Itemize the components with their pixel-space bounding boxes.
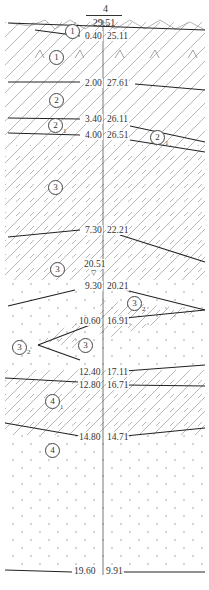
- layer-sub-index: 2: [27, 348, 31, 356]
- layer-label-circle: 4: [45, 394, 60, 409]
- layer-label-circle: 2: [150, 130, 165, 145]
- depth-label: 14.80: [78, 432, 101, 442]
- elevation-label: 20.21: [106, 281, 129, 291]
- depth-label: 3.40: [84, 114, 103, 124]
- elevation-label: 17.11: [106, 367, 129, 377]
- depth-label: 10.60: [78, 316, 101, 326]
- elevation-label: 26.11: [106, 114, 129, 124]
- depth-label: 2.00: [84, 78, 103, 88]
- surface-elevation: 29.51: [84, 17, 124, 28]
- depth-label: 4.00: [84, 130, 103, 140]
- depth-label: 7.30: [84, 225, 103, 235]
- elevation-label: 16.91: [106, 316, 129, 326]
- elevation-label: 16.71: [106, 380, 129, 390]
- layer-sub-index: 1: [63, 127, 67, 135]
- elevation-label: 25.11: [106, 31, 129, 41]
- elevation-label: 26.51: [106, 130, 129, 140]
- layer-sub-index: 1: [60, 403, 64, 411]
- layer-label-circle: 1: [65, 24, 80, 39]
- borehole-section-diagram: [0, 0, 209, 590]
- layer-sub-index: 1: [165, 139, 169, 147]
- layer-label-circle: 3: [127, 296, 142, 311]
- depth-label: 19.60: [73, 566, 96, 576]
- elevation-label: 9.91: [105, 566, 124, 576]
- layer-label-circle: 1: [49, 50, 64, 65]
- elevation-label: 27.61: [106, 78, 129, 88]
- depth-label: 9.30: [84, 281, 103, 291]
- depth-label: 12.80: [78, 380, 101, 390]
- layer-label-circle: 2: [48, 118, 63, 133]
- header-divider: [86, 15, 122, 16]
- layer-label-circle: 4: [45, 443, 60, 458]
- borehole-id: 4: [98, 3, 113, 14]
- layer-1-fill: [5, 22, 205, 105]
- depth-label: 0.40: [84, 31, 103, 41]
- layer-label-circle: 3: [78, 338, 93, 353]
- elevation-label: 22.21: [106, 225, 129, 235]
- water-level-icon: ▽: [90, 268, 97, 278]
- layer-label-circle: 2: [49, 93, 64, 108]
- layer-label-circle: 3: [48, 180, 63, 195]
- layer-label-circle: 3: [12, 340, 27, 355]
- elevation-label: 14.71: [106, 432, 129, 442]
- layer-label-circle: 3: [50, 262, 65, 277]
- layer-sub-index: 2: [142, 305, 146, 313]
- depth-label: 12.40: [78, 367, 101, 377]
